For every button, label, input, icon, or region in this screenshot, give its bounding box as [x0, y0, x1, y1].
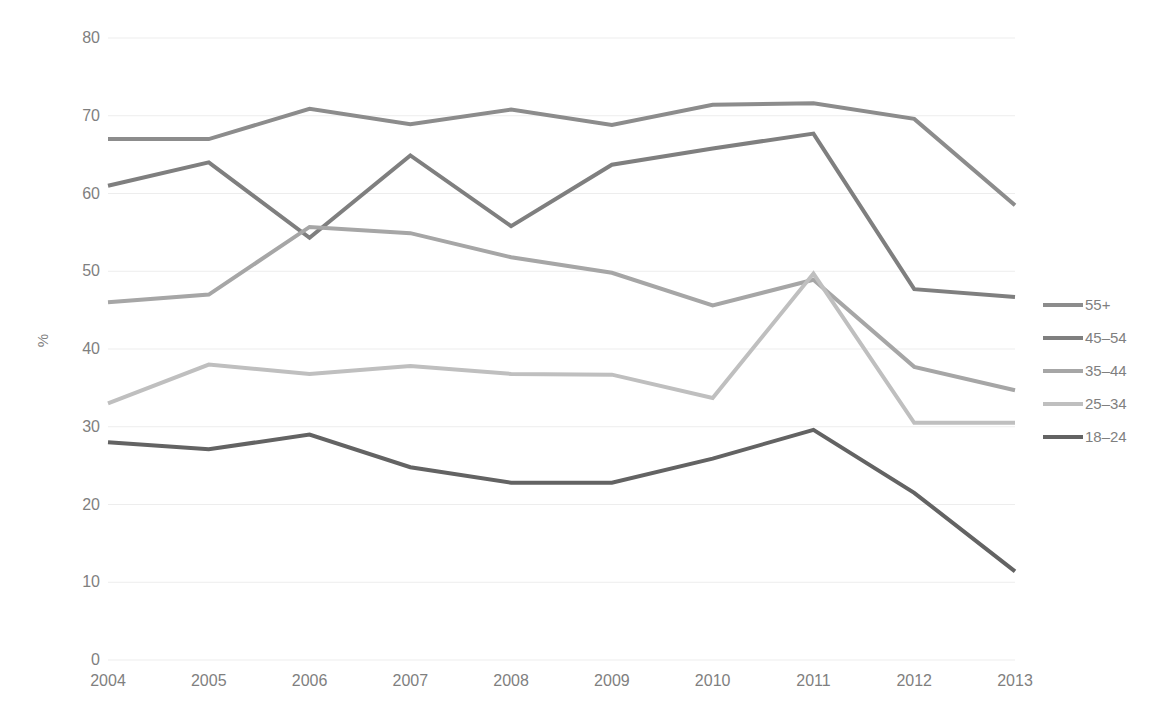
x-tick-label: 2004: [90, 672, 126, 690]
x-tick-label: 2009: [594, 672, 630, 690]
legend-swatch-icon: [1043, 402, 1083, 406]
legend-item[interactable]: 25–34: [1043, 387, 1161, 420]
legend-label: 45–54: [1085, 329, 1127, 346]
legend-label: 55+: [1085, 296, 1110, 313]
x-tick-label: 2012: [896, 672, 932, 690]
legend-item[interactable]: 55+: [1043, 288, 1161, 321]
x-tick-label: 2008: [493, 672, 529, 690]
legend-item[interactable]: 45–54: [1043, 321, 1161, 354]
x-tick-label: 2005: [191, 672, 227, 690]
legend-label: 18–24: [1085, 428, 1127, 445]
legend-swatch-icon: [1043, 435, 1083, 439]
line-chart: % 80706050403020100 20042005200620072008…: [0, 0, 1164, 720]
legend-label: 35–44: [1085, 362, 1127, 379]
legend-label: 25–34: [1085, 395, 1127, 412]
x-tick-label: 2010: [695, 672, 731, 690]
x-tick-label: 2006: [292, 672, 328, 690]
x-tick-label: 2011: [796, 672, 830, 690]
legend-swatch-icon: [1043, 336, 1083, 340]
legend-swatch-icon: [1043, 369, 1083, 373]
legend-item[interactable]: 18–24: [1043, 420, 1161, 453]
legend-item[interactable]: 35–44: [1043, 354, 1161, 387]
x-axis-tick-labels: 2004200520062007200820092010201120122013: [0, 0, 1164, 720]
chart-legend: 55+45–5435–4425–3418–24: [1043, 288, 1161, 453]
legend-swatch-icon: [1043, 303, 1083, 307]
x-tick-label: 2007: [393, 672, 429, 690]
x-tick-label: 2013: [997, 672, 1033, 690]
